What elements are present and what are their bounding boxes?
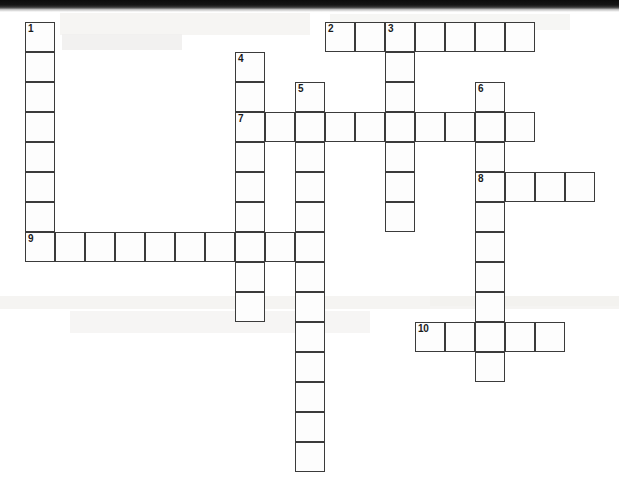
crossword-cell[interactable] (385, 142, 415, 172)
crossword-cell[interactable]: 7 (235, 112, 265, 142)
crossword-cell[interactable] (175, 232, 205, 262)
clue-number-1: 1 (28, 23, 33, 35)
crossword-cell[interactable] (475, 232, 505, 262)
crossword-cell[interactable] (235, 292, 265, 322)
crossword-cell[interactable] (475, 142, 505, 172)
clue-number-9: 9 (28, 233, 33, 245)
crossword-cell[interactable]: 2 (325, 22, 355, 52)
crossword-cell[interactable] (415, 112, 445, 142)
crossword-cell[interactable] (25, 112, 55, 142)
crossword-cell[interactable] (325, 112, 355, 142)
crossword-cell[interactable] (295, 412, 325, 442)
clue-number-7: 7 (238, 113, 243, 125)
crossword-cell[interactable] (295, 172, 325, 202)
clue-number-3: 3 (388, 23, 393, 35)
crossword-cell[interactable] (235, 142, 265, 172)
crossword-page: 19475236810 (0, 0, 619, 494)
crossword-cell[interactable] (295, 142, 325, 172)
crossword-cell[interactable] (355, 22, 385, 52)
crossword-cell[interactable] (535, 322, 565, 352)
crossword-cell[interactable] (295, 352, 325, 382)
crossword-cell[interactable] (295, 112, 325, 142)
crossword-cell[interactable] (235, 232, 265, 262)
crossword-cell[interactable] (25, 142, 55, 172)
crossword-cell[interactable] (415, 22, 445, 52)
crossword-cell[interactable] (235, 82, 265, 112)
crossword-cell[interactable]: 8 (475, 172, 505, 202)
crossword-cell[interactable] (385, 202, 415, 232)
clue-number-6: 6 (478, 83, 483, 95)
clue-number-8: 8 (478, 173, 483, 185)
crossword-cell[interactable] (445, 322, 475, 352)
crossword-cell[interactable] (145, 232, 175, 262)
crossword-cell[interactable] (295, 382, 325, 412)
crossword-cell[interactable]: 1 (25, 22, 55, 52)
crossword-cell[interactable] (25, 82, 55, 112)
crossword-cell[interactable]: 6 (475, 82, 505, 112)
crossword-cell[interactable] (115, 232, 145, 262)
crossword-cell[interactable] (25, 172, 55, 202)
crossword-cell[interactable]: 10 (415, 322, 445, 352)
crossword-cell[interactable] (445, 112, 475, 142)
crossword-cell[interactable] (25, 52, 55, 82)
crossword-cell[interactable] (235, 172, 265, 202)
crossword-cell[interactable] (25, 202, 55, 232)
crossword-cell[interactable] (55, 232, 85, 262)
crossword-cell[interactable] (385, 112, 415, 142)
crossword-cell[interactable] (355, 112, 385, 142)
crossword-cell[interactable] (385, 52, 415, 82)
clue-number-5: 5 (298, 83, 303, 95)
clue-number-4: 4 (238, 53, 243, 65)
crossword-cell[interactable] (475, 112, 505, 142)
crossword-cell[interactable] (475, 262, 505, 292)
crossword-cell[interactable] (385, 82, 415, 112)
crossword-cell[interactable] (475, 202, 505, 232)
crossword-cell[interactable] (265, 112, 295, 142)
crossword-cell[interactable]: 5 (295, 82, 325, 112)
crossword-cell[interactable] (295, 322, 325, 352)
crossword-cell[interactable] (235, 262, 265, 292)
crossword-cell[interactable] (505, 172, 535, 202)
clue-number-10: 10 (418, 323, 429, 335)
crossword-cell[interactable]: 3 (385, 22, 415, 52)
crossword-cell[interactable] (295, 232, 325, 262)
crossword-cell[interactable]: 4 (235, 52, 265, 82)
crossword-cell[interactable] (295, 262, 325, 292)
crossword-cell[interactable] (295, 442, 325, 472)
crossword-cell[interactable] (295, 202, 325, 232)
crossword-cell[interactable] (475, 292, 505, 322)
crossword-cell[interactable] (475, 322, 505, 352)
crossword-grid[interactable]: 19475236810 (0, 0, 619, 494)
crossword-cell[interactable] (505, 112, 535, 142)
crossword-cell[interactable] (505, 322, 535, 352)
crossword-cell[interactable] (235, 202, 265, 232)
crossword-cell[interactable] (535, 172, 565, 202)
crossword-cell[interactable] (85, 232, 115, 262)
crossword-cell[interactable] (445, 22, 475, 52)
crossword-cell[interactable] (565, 172, 595, 202)
crossword-cell[interactable] (475, 22, 505, 52)
crossword-cell[interactable] (385, 172, 415, 202)
crossword-cell[interactable] (505, 22, 535, 52)
crossword-cell[interactable] (295, 292, 325, 322)
crossword-cell[interactable] (205, 232, 235, 262)
clue-number-2: 2 (328, 23, 333, 35)
crossword-cell[interactable]: 9 (25, 232, 55, 262)
crossword-cell[interactable] (265, 232, 295, 262)
crossword-cell[interactable] (475, 352, 505, 382)
